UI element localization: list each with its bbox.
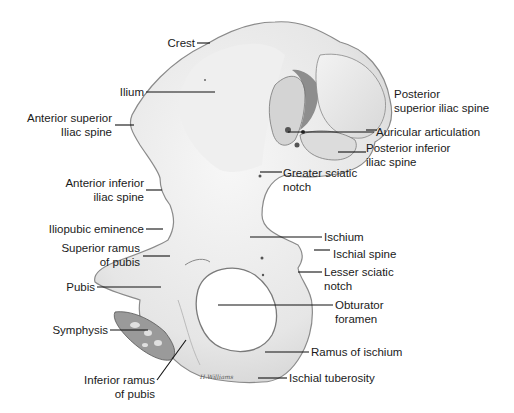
label-text: Superior ramus — [20, 241, 140, 255]
bone-dot — [259, 175, 262, 178]
label-text: foramen — [335, 312, 384, 326]
label-text: Ramus of ischium — [311, 345, 402, 359]
label-inferior-ramus-of-pubis: Inferior ramus of pubis — [40, 373, 155, 401]
label-text: Auricular articulation — [376, 125, 480, 139]
label-iliopubic-eminence: Iliopubic eminence — [20, 222, 144, 236]
label-ramus-of-ischium: Ramus of ischium — [311, 345, 402, 359]
bone-dot — [204, 79, 206, 81]
label-text: Lesser sciatic — [324, 265, 394, 279]
label-text: Ischial spine — [333, 247, 396, 261]
label-text: Pubis — [20, 280, 95, 294]
label-text: iliac spine — [20, 190, 144, 204]
label-text: superior iliac spine — [394, 101, 489, 115]
label-ischium: Ischium — [324, 230, 364, 244]
hip-bone-diagram: H.Williams Crest Ilium — [0, 0, 514, 413]
label-posterior-superior-iliac-spine: Posterior superior iliac spine — [394, 87, 489, 115]
label-text: notch — [324, 279, 394, 293]
label-crest: Crest — [140, 36, 195, 50]
label-text: Posterior — [394, 87, 489, 101]
bone-dot — [262, 274, 264, 276]
label-text: of pubis — [40, 387, 155, 401]
label-ischial-spine: Ischial spine — [333, 247, 396, 261]
label-obturator-foramen: Obturator foramen — [335, 298, 384, 326]
label-text: notch — [283, 180, 357, 194]
label-ischial-tuberosity: Ischial tuberosity — [289, 371, 375, 385]
label-anterior-inferior-iliac-spine: Anterior inferior iliac spine — [20, 176, 144, 204]
label-anterior-superior-iliac-spine: Anterior superior Iliac spine — [0, 111, 112, 139]
label-posterior-inferior-iliac-spine: Posterior inferior iliac spine — [366, 141, 450, 169]
label-text: Anterior inferior — [20, 176, 144, 190]
label-text: iliac spine — [366, 155, 450, 169]
label-pubis: Pubis — [20, 280, 95, 294]
bone-dot — [261, 257, 264, 260]
label-text: Ischial tuberosity — [289, 371, 375, 385]
label-text: Ilium — [90, 85, 144, 99]
label-text: Crest — [140, 36, 195, 50]
label-auricular-articulation: Auricular articulation — [376, 125, 480, 139]
label-ilium: Ilium — [90, 85, 144, 99]
foramen-dot — [295, 143, 300, 148]
label-text: of pubis — [20, 255, 140, 269]
hip-bone-illustration: H.Williams — [0, 0, 514, 413]
label-text: Greater sciatic — [283, 166, 357, 180]
label-text: Posterior inferior — [366, 141, 450, 155]
label-text: Anterior superior — [0, 111, 112, 125]
label-text: Iliopubic eminence — [20, 222, 144, 236]
artist-signature: H.Williams — [199, 373, 233, 380]
label-superior-ramus-of-pubis: Superior ramus of pubis — [20, 241, 140, 269]
label-text: Ischium — [324, 230, 364, 244]
label-text: Obturator — [335, 298, 384, 312]
label-text: Symphysis — [20, 323, 108, 337]
label-symphysis: Symphysis — [20, 323, 108, 337]
label-text: Inferior ramus — [40, 373, 155, 387]
label-lesser-sciatic-notch: Lesser sciatic notch — [324, 265, 394, 293]
label-text: Iliac spine — [0, 125, 112, 139]
label-greater-sciatic-notch: Greater sciatic notch — [283, 166, 357, 194]
